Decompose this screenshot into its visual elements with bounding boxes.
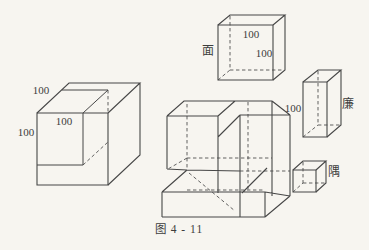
lian-piece: 100 廉 — [285, 70, 354, 137]
yu-name-label: 隅 — [328, 165, 340, 179]
inner-cube-top-outline — [62, 90, 108, 113]
lian-name-label: 廉 — [342, 96, 354, 111]
big-cube-top-right-faces — [37, 83, 140, 185]
big-cube-front-face — [37, 113, 108, 185]
lian-top-right-faces — [303, 70, 341, 137]
shell-visible-edges — [162, 101, 290, 217]
lian-hidden-edges — [303, 71, 340, 137]
mian-width-dim-label: 100 — [243, 28, 260, 40]
mian-name-label: 面 — [202, 44, 214, 58]
big-cube-face-dim-label: 100 — [56, 115, 73, 127]
shell-solid — [162, 101, 290, 217]
big-cube-top-dim-label: 100 — [33, 84, 50, 96]
page: 100 100 100 100 100 面 100 廉 — [0, 0, 369, 250]
mian-hidden-edges — [218, 16, 284, 80]
mian-piece: 100 100 面 — [202, 15, 285, 80]
lian-front-face — [303, 82, 327, 137]
big-cube: 100 100 100 — [18, 83, 140, 185]
figure-4-11-canvas: 100 100 100 100 100 面 100 廉 — [0, 0, 369, 250]
mian-height-dim-label: 100 — [256, 47, 273, 59]
yu-front-face — [293, 170, 316, 192]
figure-caption: 图 4 - 11 — [155, 223, 203, 235]
big-cube-side-dim-label: 100 — [18, 126, 35, 138]
lian-dim-label: 100 — [285, 102, 302, 114]
yu-piece: 隅 — [293, 161, 340, 192]
